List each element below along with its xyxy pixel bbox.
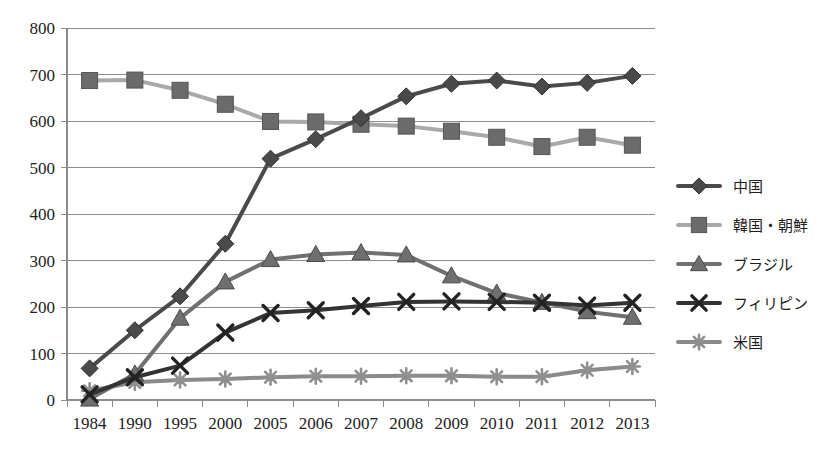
data-point-marker [533, 78, 550, 95]
marker-diamond [533, 78, 550, 95]
data-point-marker [399, 368, 414, 383]
marker-asterisk [218, 372, 233, 387]
data-point-marker [625, 359, 640, 374]
marker-asterisk [308, 369, 323, 384]
y-tick-label: 400 [30, 205, 56, 224]
legend-item-4[interactable]: 米国 [678, 334, 763, 352]
legend-item-2[interactable]: ブラジル [678, 255, 793, 274]
data-point-marker [127, 72, 143, 88]
x-tick-label: 2012 [570, 414, 604, 433]
y-tick-label: 600 [30, 112, 56, 131]
data-point-marker [173, 373, 188, 388]
marker-diamond [691, 178, 707, 194]
legend-label: 米国 [733, 334, 763, 352]
marker-asterisk [263, 370, 278, 385]
data-point-marker [534, 139, 550, 155]
x-tick-label: 2007 [344, 414, 379, 433]
marker-asterisk [534, 369, 549, 384]
data-point-marker [263, 113, 279, 129]
data-point-marker [307, 131, 324, 148]
legend-item-0[interactable]: 中国 [678, 178, 763, 196]
data-point-marker [443, 75, 460, 92]
legend-label: フィリピン [733, 295, 808, 313]
x-tick-label: 2010 [480, 414, 514, 433]
series-0 [81, 67, 641, 376]
y-tick-label: 800 [30, 19, 56, 38]
y-tick-label: 200 [30, 298, 56, 317]
marker-square [172, 82, 188, 98]
marker-square [263, 113, 279, 129]
marker-asterisk [489, 369, 504, 384]
y-tick-label: 0 [47, 391, 56, 410]
data-point-marker [534, 369, 549, 384]
data-point-marker [444, 368, 459, 383]
x-axis-tick-labels: 1984199019952000200520062007200820092010… [73, 414, 650, 433]
data-point-marker [308, 114, 324, 130]
series-3 [82, 294, 640, 402]
marker-square [82, 73, 98, 89]
line-chart: 8007006005004003002001000 19841990199520… [0, 0, 832, 452]
series-4 [82, 359, 640, 398]
data-point-marker [489, 129, 505, 145]
marker-square [127, 72, 143, 88]
x-tick-label: 1984 [73, 414, 108, 433]
data-point-marker [443, 123, 459, 139]
marker-square [691, 217, 706, 232]
data-point-marker [262, 150, 279, 167]
data-point-marker [579, 74, 596, 91]
y-axis-tick-labels: 8007006005004003002001000 [30, 19, 56, 410]
marker-square [579, 129, 595, 145]
x-tick-label: 2000 [208, 414, 242, 433]
marker-asterisk [580, 363, 595, 378]
marker-diamond [579, 74, 596, 91]
data-point-marker [354, 369, 369, 384]
data-point-marker [398, 118, 414, 134]
x-tick-label: 2005 [254, 414, 288, 433]
x-tick-label: 2013 [615, 414, 649, 433]
x-tick-label: 2008 [389, 414, 423, 433]
y-tick-label: 700 [30, 66, 56, 85]
marker-asterisk [173, 373, 188, 388]
data-point-marker [308, 369, 323, 384]
marker-asterisk [354, 369, 369, 384]
data-point-marker [218, 325, 233, 340]
marker-square [398, 118, 414, 134]
data-point-marker [624, 67, 641, 84]
marker-asterisk [692, 335, 706, 349]
marker-square [624, 137, 640, 153]
data-point-marker [218, 372, 233, 387]
x-tick-label: 2006 [299, 414, 333, 433]
marker-asterisk [399, 368, 414, 383]
legend-label: ブラジル [733, 256, 793, 274]
y-tick-label: 500 [30, 159, 56, 178]
chart-canvas: 8007006005004003002001000 19841990199520… [0, 0, 832, 452]
y-tick-label: 300 [30, 252, 56, 271]
data-point-marker [489, 369, 504, 384]
marker-diamond [443, 75, 460, 92]
legend-item-3[interactable]: フィリピン [678, 295, 808, 313]
marker-square [489, 129, 505, 145]
marker-diamond [262, 150, 279, 167]
y-tick-label: 100 [30, 345, 56, 364]
marker-square [534, 139, 550, 155]
x-tick-label: 2011 [525, 414, 558, 433]
marker-asterisk [625, 359, 640, 374]
marker-cross [218, 325, 233, 340]
marker-square [443, 123, 459, 139]
data-point-marker [580, 363, 595, 378]
data-point-marker [398, 88, 415, 105]
legend-item-1[interactable]: 韓国・朝鮮 [678, 217, 808, 235]
marker-diamond [624, 67, 641, 84]
marker-diamond [398, 88, 415, 105]
marker-diamond [307, 131, 324, 148]
data-point-marker [82, 73, 98, 89]
data-point-marker [263, 370, 278, 385]
x-tick-label: 1995 [163, 414, 197, 433]
data-series-group [81, 67, 642, 406]
data-point-marker [217, 96, 233, 112]
marker-square [308, 114, 324, 130]
data-point-marker [579, 129, 595, 145]
legend-label: 中国 [733, 178, 763, 196]
data-point-marker [624, 137, 640, 153]
data-point-marker [691, 217, 706, 232]
